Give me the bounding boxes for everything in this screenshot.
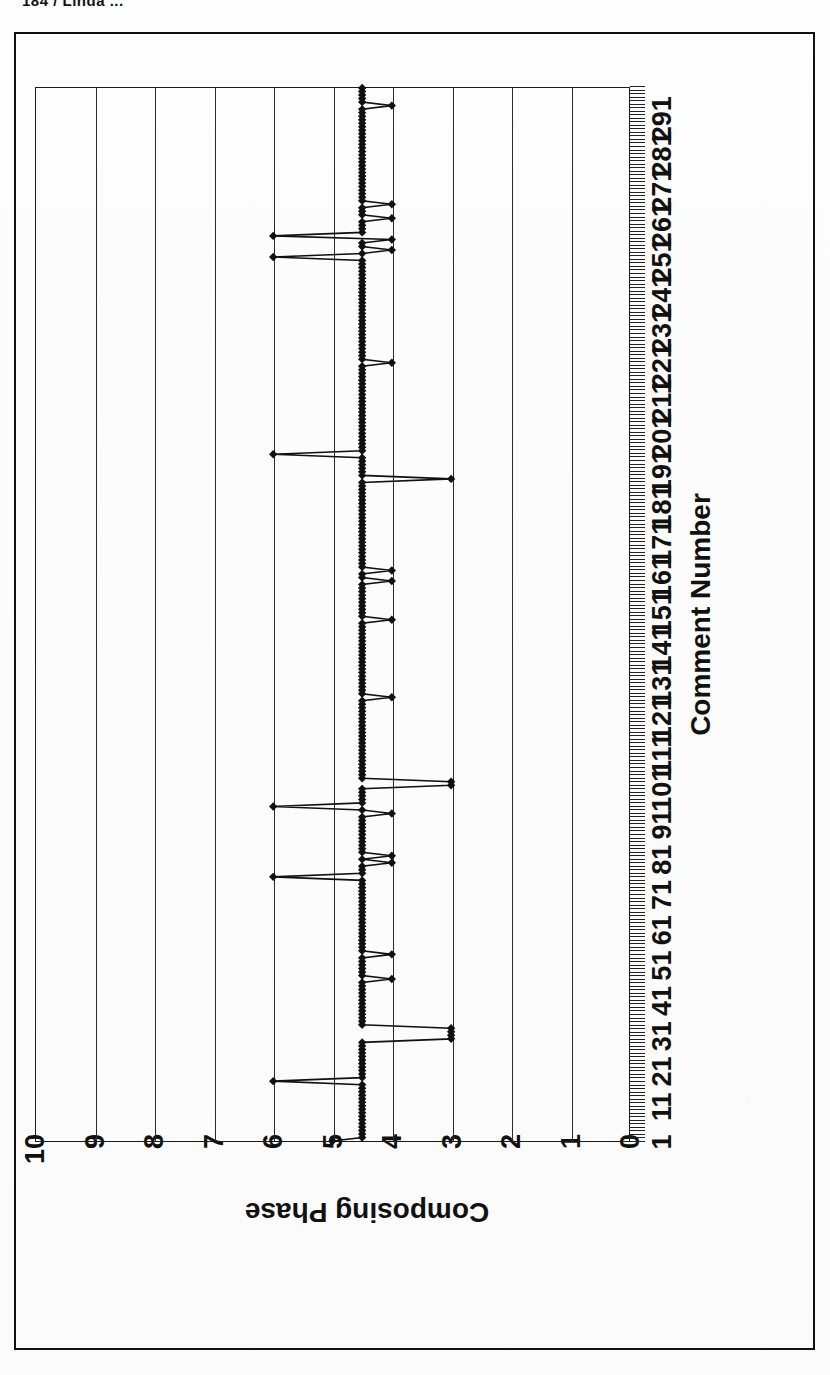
x-axis-minor-tick — [630, 513, 645, 514]
x-axis-minor-tick — [630, 827, 645, 828]
x-axis-minor-tick — [630, 901, 645, 902]
x-axis-minor-tick — [630, 629, 645, 630]
x-axis-minor-tick — [630, 199, 645, 200]
x-axis-minor-tick — [630, 534, 645, 535]
x-axis-minor-tick — [630, 689, 645, 690]
x-axis-minor-tick — [630, 1088, 645, 1089]
x-axis-minor-tick — [630, 344, 645, 345]
x-axis-minor-tick — [630, 598, 645, 599]
x-axis-minor-tick — [630, 315, 645, 316]
y-axis-tick-label: 10 — [22, 1134, 49, 1194]
plot-area — [35, 87, 630, 1142]
x-axis-minor-tick — [630, 668, 645, 669]
x-axis-minor-tick — [630, 294, 645, 295]
x-axis-minor-tick — [630, 1039, 645, 1040]
x-axis-minor-tick — [630, 728, 645, 729]
x-axis-minor-tick — [630, 446, 645, 447]
x-axis-minor-tick — [630, 464, 645, 465]
x-axis-minor-tick — [630, 358, 645, 359]
data-point-marker — [269, 873, 277, 881]
x-axis-minor-tick — [630, 269, 645, 270]
x-axis-minor-tick — [630, 365, 645, 366]
x-axis-minor-tick — [630, 714, 645, 715]
x-axis-minor-tick — [630, 898, 645, 899]
x-axis-minor-tick — [630, 449, 645, 450]
x-axis-minor-tick — [630, 809, 645, 810]
x-axis-minor-tick — [630, 566, 645, 567]
x-axis-minor-tick — [630, 478, 645, 479]
plot-wrapper: Composing Phase 012345678910 11121314151… — [17, 72, 717, 1262]
x-axis-minor-tick — [630, 675, 645, 676]
x-axis-minor-tick — [630, 1067, 645, 1068]
x-axis-minor-tick — [630, 608, 645, 609]
data-point-marker — [388, 235, 396, 243]
x-axis-minor-tick — [630, 495, 645, 496]
x-axis-minor-tick — [630, 287, 645, 288]
x-axis-minor-tick — [630, 255, 645, 256]
x-axis-minor-tick — [630, 471, 645, 472]
x-axis-minor-tick — [630, 393, 645, 394]
x-axis-minor-tick — [630, 806, 645, 807]
x-axis-minor-tick — [630, 972, 645, 973]
x-axis-minor-tick — [630, 527, 645, 528]
x-axis-minor-tick — [630, 492, 645, 493]
x-axis-minor-tick — [630, 93, 645, 94]
data-point-marker — [388, 101, 396, 109]
x-axis-minor-tick — [630, 389, 645, 390]
x-axis-minor-tick — [630, 150, 645, 151]
x-axis-minor-tick — [630, 241, 645, 242]
x-axis-minor-tick — [630, 245, 645, 246]
x-axis-minor-tick — [630, 351, 645, 352]
x-axis-minor-tick — [630, 922, 645, 923]
x-axis-minor-tick — [630, 1099, 645, 1100]
x-axis-minor-tick — [630, 672, 645, 673]
x-axis-minor-tick — [630, 457, 645, 458]
x-axis-minor-tick — [630, 164, 645, 165]
x-axis-minor-tick — [630, 576, 645, 577]
x-axis-minor-tick — [630, 1060, 645, 1061]
x-axis-minor-tick — [630, 573, 645, 574]
x-axis-minor-tick — [630, 502, 645, 503]
x-axis-minor-tick — [630, 1102, 645, 1103]
x-axis-minor-tick — [630, 958, 645, 959]
x-axis-minor-tick — [630, 848, 645, 849]
x-axis-minor-tick — [630, 936, 645, 937]
x-axis-minor-tick — [630, 1081, 645, 1082]
x-axis-minor-tick — [630, 128, 645, 129]
x-axis-minor-tick — [630, 516, 645, 517]
x-axis-minor-tick — [630, 248, 645, 249]
data-point-marker — [388, 975, 396, 983]
x-axis-minor-tick — [630, 619, 645, 620]
x-axis-minor-tick — [630, 234, 645, 235]
x-axis-minor-tick — [630, 259, 645, 260]
x-axis-minor-tick — [630, 866, 645, 867]
x-axis-minor-tick — [630, 333, 645, 334]
x-axis-minor-tick — [630, 993, 645, 994]
x-axis-minor-tick — [630, 887, 645, 888]
x-axis-minor-tick — [630, 305, 645, 306]
x-axis-minor-tick — [630, 262, 645, 263]
x-axis-minor-tick — [630, 107, 645, 108]
data-point-marker — [269, 232, 277, 240]
x-axis-minor-tick — [630, 111, 645, 112]
x-axis-minor-tick — [630, 1053, 645, 1054]
chart-canvas: Composing Phase 012345678910 11121314151… — [17, 72, 717, 1262]
x-axis-minor-tick — [630, 654, 645, 655]
x-axis-minor-tick — [630, 188, 645, 189]
x-axis-minor-tick — [630, 1003, 645, 1004]
x-axis-minor-tick — [630, 883, 645, 884]
x-axis-minor-tick — [630, 97, 645, 98]
x-axis-minor-tick — [630, 908, 645, 909]
x-axis-minor-tick — [630, 1074, 645, 1075]
x-axis-minor-tick — [630, 185, 645, 186]
x-axis-minor-tick — [630, 435, 645, 436]
x-axis-minor-tick — [630, 217, 645, 218]
x-axis-minor-tick — [630, 481, 645, 482]
x-axis-minor-tick — [630, 725, 645, 726]
x-axis-minor-tick — [630, 1028, 645, 1029]
x-axis-minor-tick — [630, 587, 645, 588]
x-axis-minor-tick — [630, 531, 645, 532]
x-axis-minor-tick — [630, 160, 645, 161]
x-axis-minor-tick — [630, 545, 645, 546]
x-axis-minor-tick — [630, 210, 645, 211]
